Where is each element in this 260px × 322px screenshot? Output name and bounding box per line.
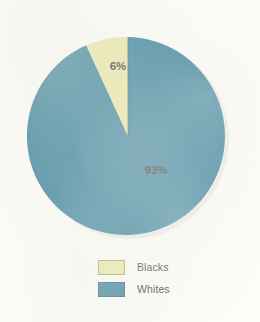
chart-legend: Blacks Whites — [98, 256, 170, 300]
legend-item-blacks[interactable]: Blacks — [98, 256, 170, 278]
legend-swatch-whites-icon — [98, 282, 125, 297]
legend-label-blacks: Blacks — [137, 261, 169, 273]
slice-label-blacks: 6% — [110, 60, 127, 72]
slice-label-whites: 93% — [144, 164, 167, 176]
legend-item-whites[interactable]: Whites — [98, 278, 170, 300]
legend-label-whites: Whites — [137, 283, 170, 295]
legend-swatch-blacks-icon — [98, 260, 125, 275]
pie-chart-figure: 6% 93% Blacks Whites — [0, 0, 260, 322]
